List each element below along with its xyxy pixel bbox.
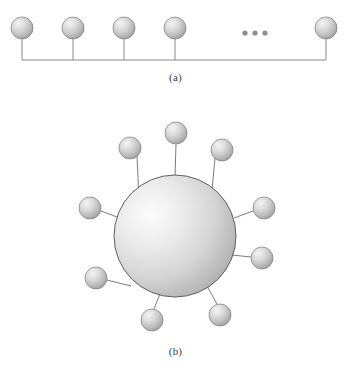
panel-a-sphere-2 xyxy=(62,17,84,39)
figure-svg xyxy=(0,0,351,377)
panel-b-satellite-7 xyxy=(251,247,273,269)
panel-b-satellite-8 xyxy=(141,309,163,331)
panel-b-satellite-5 xyxy=(253,197,275,219)
ellipsis-dot-1 xyxy=(242,30,247,35)
panel-b-link-1 xyxy=(175,144,176,176)
panel-b-link-8 xyxy=(154,294,160,309)
panel-b-satellite-4 xyxy=(79,197,101,219)
panel-a-stems-group xyxy=(22,38,326,60)
figure-container: (a) (b) xyxy=(0,0,351,377)
panel-b-link-4 xyxy=(101,211,117,217)
panel-a-sphere-1 xyxy=(11,17,33,39)
panel-a-ellipsis-icon xyxy=(242,30,267,35)
panel-b-link-9 xyxy=(207,286,217,304)
panel-a-caption: (a) xyxy=(0,71,351,83)
panel-b-satellite-2 xyxy=(119,137,141,159)
panel-a-group xyxy=(11,17,337,60)
panel-a-sphere-3 xyxy=(113,17,135,39)
panel-b-link-5 xyxy=(234,211,253,218)
panel-b-core-circle xyxy=(114,175,236,297)
panel-b-group xyxy=(79,122,275,331)
ellipsis-dot-2 xyxy=(252,30,257,35)
panel-b-link-6 xyxy=(107,280,131,286)
panel-b-satellite-9 xyxy=(209,304,231,326)
ellipsis-dot-3 xyxy=(262,30,267,35)
panel-b-link-7 xyxy=(232,255,251,257)
panel-b-caption: (b) xyxy=(0,345,351,357)
panel-b-satellite-6 xyxy=(85,267,107,289)
panel-a-spheres-group xyxy=(11,17,337,39)
panel-a-sphere-4 xyxy=(164,17,186,39)
panel-b-satellite-1 xyxy=(165,122,187,144)
panel-b-satellite-3 xyxy=(211,139,233,161)
panel-a-sphere-5 xyxy=(315,17,337,39)
panel-b-core-sphere xyxy=(114,175,236,297)
